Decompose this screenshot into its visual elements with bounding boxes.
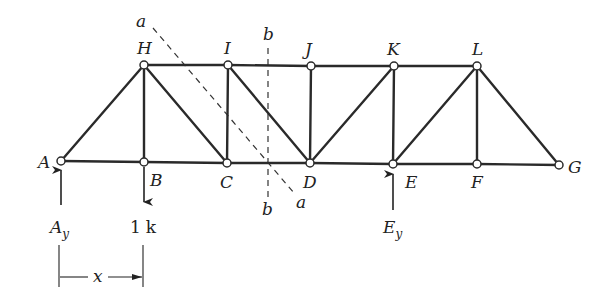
label-F: F	[470, 172, 484, 192]
joint-labels: A B C D E F G H I J K L	[36, 38, 582, 192]
label-C: C	[220, 172, 233, 192]
section-b-bottom-label: b	[262, 199, 273, 219]
reaction-label-Ay: Ay	[48, 217, 69, 241]
label-B: B	[149, 170, 163, 190]
joint-C	[223, 159, 231, 167]
member-BC	[144, 162, 227, 163]
joint-L	[473, 62, 481, 70]
reaction-label-Ey: Ey	[382, 217, 402, 241]
label-J: J	[302, 39, 313, 59]
section-a-top-label: a	[136, 11, 146, 31]
label-L: L	[471, 39, 483, 59]
member-IC	[227, 65, 228, 163]
member-KE	[393, 66, 394, 164]
joint-G	[555, 161, 563, 169]
label-H: H	[136, 38, 153, 58]
label-E: E	[404, 172, 418, 192]
member-FG	[477, 164, 559, 165]
joint-A	[57, 157, 65, 165]
member-LG	[477, 66, 559, 165]
dimension-x: x	[59, 245, 143, 287]
joint-H	[140, 61, 148, 69]
dimension-label-x: x	[93, 266, 103, 286]
section-b-top-label: b	[263, 24, 274, 44]
label-A: A	[36, 152, 50, 172]
member-DE	[310, 163, 393, 164]
member-AH	[61, 65, 144, 161]
joint-I	[224, 61, 232, 69]
member-AB	[61, 161, 144, 162]
member-LE	[393, 66, 477, 164]
member-ID	[228, 65, 310, 163]
member-HC	[144, 65, 227, 163]
member-KD	[310, 66, 394, 163]
joint-K	[390, 62, 398, 70]
joint-E	[389, 160, 397, 168]
label-K: K	[386, 39, 401, 59]
joint-F	[473, 160, 481, 168]
load-label-1k: 1k	[130, 217, 157, 237]
truss-diagram: A B C D E F G H I J K L a a b b Ay 1k Ey	[0, 0, 616, 307]
joint-D	[306, 159, 314, 167]
joint-B	[140, 158, 148, 166]
section-a-bottom-label: a	[296, 192, 306, 212]
joint-J	[307, 62, 315, 70]
truss-members	[61, 65, 559, 165]
member-IJ	[228, 65, 311, 66]
label-I: I	[223, 38, 231, 58]
label-G: G	[568, 157, 582, 177]
member-JD	[310, 66, 311, 163]
label-D: D	[302, 172, 317, 192]
